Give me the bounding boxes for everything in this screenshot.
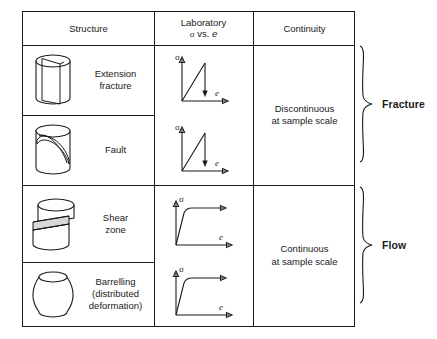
structure-label-extension-fracture: Extension fracture: [83, 68, 154, 92]
svg-text:σ: σ: [179, 194, 184, 204]
graph-cell-fault: σ e: [154, 115, 253, 185]
column-header-laboratory-sub: σ vs. e: [181, 28, 226, 40]
graph-cell-extension-fracture: σ e: [154, 45, 253, 115]
barrelled-cylinder-icon: [23, 267, 83, 321]
cylinder-with-vertical-fracture-icon: [23, 52, 83, 108]
structure-label-line1: Extension: [95, 68, 137, 79]
continuity-line2: at sample scale: [271, 115, 337, 126]
structure-label-shear-zone: Shear zone: [83, 212, 154, 236]
comparison-table: Structure Laboratory σ vs. e Continuity: [22, 11, 355, 327]
structure-label-line2: (distributed: [92, 288, 139, 299]
structure-label-line2: zone: [105, 224, 126, 235]
svg-text:σ: σ: [175, 52, 180, 62]
structure-label-line1: Fault: [105, 144, 126, 155]
continuity-line2: at sample scale: [271, 256, 337, 267]
cylinder-with-diagonal-fault-icon: [23, 122, 83, 178]
svg-text:e: e: [215, 158, 219, 168]
svg-text:e: e: [215, 88, 219, 98]
brace-fracture: [356, 44, 378, 164]
stress-strain-brittle-chart-1: σ e: [168, 51, 240, 109]
svg-text:e: e: [219, 302, 223, 312]
structure-label-line2: fracture: [99, 80, 131, 91]
graph-cell-shear-zone: σ e: [154, 185, 253, 262]
brace-flow: [356, 185, 378, 305]
stress-strain-ductile-chart-1: σ e: [164, 193, 244, 255]
group-label-fracture: Fracture: [382, 98, 425, 110]
structure-cell-fault: Fault: [23, 115, 154, 185]
svg-text:σ: σ: [179, 264, 184, 274]
svg-text:σ: σ: [175, 122, 180, 132]
continuity-cell-fracture: Discontinuous at sample scale: [253, 45, 356, 185]
structure-cell-barrelling: Barrelling (distributed deformation): [23, 262, 154, 326]
column-header-laboratory: Laboratory σ vs. e: [154, 12, 253, 45]
column-header-laboratory-label: Laboratory: [181, 17, 226, 29]
structure-label-line1: Barrelling: [95, 276, 135, 287]
structure-label-line3: deformation): [89, 300, 142, 311]
deformation-style-figure: Structure Laboratory σ vs. e Continuity: [0, 0, 437, 339]
graph-cell-barrelling: σ e: [154, 262, 253, 326]
column-header-continuity: Continuity: [253, 12, 356, 45]
stress-strain-brittle-chart-2: σ e: [168, 121, 240, 179]
structure-label-fault: Fault: [83, 144, 154, 156]
structure-label-barrelling: Barrelling (distributed deformation): [83, 276, 154, 312]
column-header-structure: Structure: [23, 12, 154, 45]
cylinder-with-shear-zone-band-icon: [23, 194, 83, 254]
continuity-cell-flow: Continuous at sample scale: [253, 185, 356, 326]
stress-strain-ductile-chart-2: σ e: [164, 263, 244, 325]
structure-cell-extension-fracture: Extension fracture: [23, 45, 154, 115]
svg-text:e: e: [219, 232, 223, 242]
structure-label-line1: Shear: [103, 212, 128, 223]
column-header-continuity-label: Continuity: [283, 23, 325, 35]
continuity-line1: Discontinuous: [275, 103, 335, 114]
continuity-line1: Continuous: [280, 243, 328, 254]
column-header-structure-label: Structure: [69, 23, 108, 35]
group-label-flow: Flow: [382, 239, 406, 251]
structure-cell-shear-zone: Shear zone: [23, 185, 154, 262]
